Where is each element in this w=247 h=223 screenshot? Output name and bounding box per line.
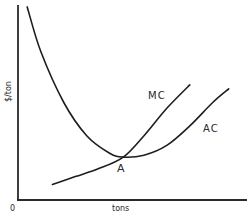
origin-label: 0 bbox=[10, 204, 15, 213]
point-a-label: A bbox=[117, 162, 125, 175]
mc-curve-label: MC bbox=[148, 90, 166, 101]
ac-curve bbox=[27, 7, 229, 157]
cost-curves-chart: 0 tons $/ton MC AC A bbox=[0, 0, 247, 223]
y-axis-label: $/ton bbox=[4, 81, 13, 102]
x-axis-label: tons bbox=[112, 204, 129, 213]
ac-curve-label: AC bbox=[203, 123, 219, 134]
